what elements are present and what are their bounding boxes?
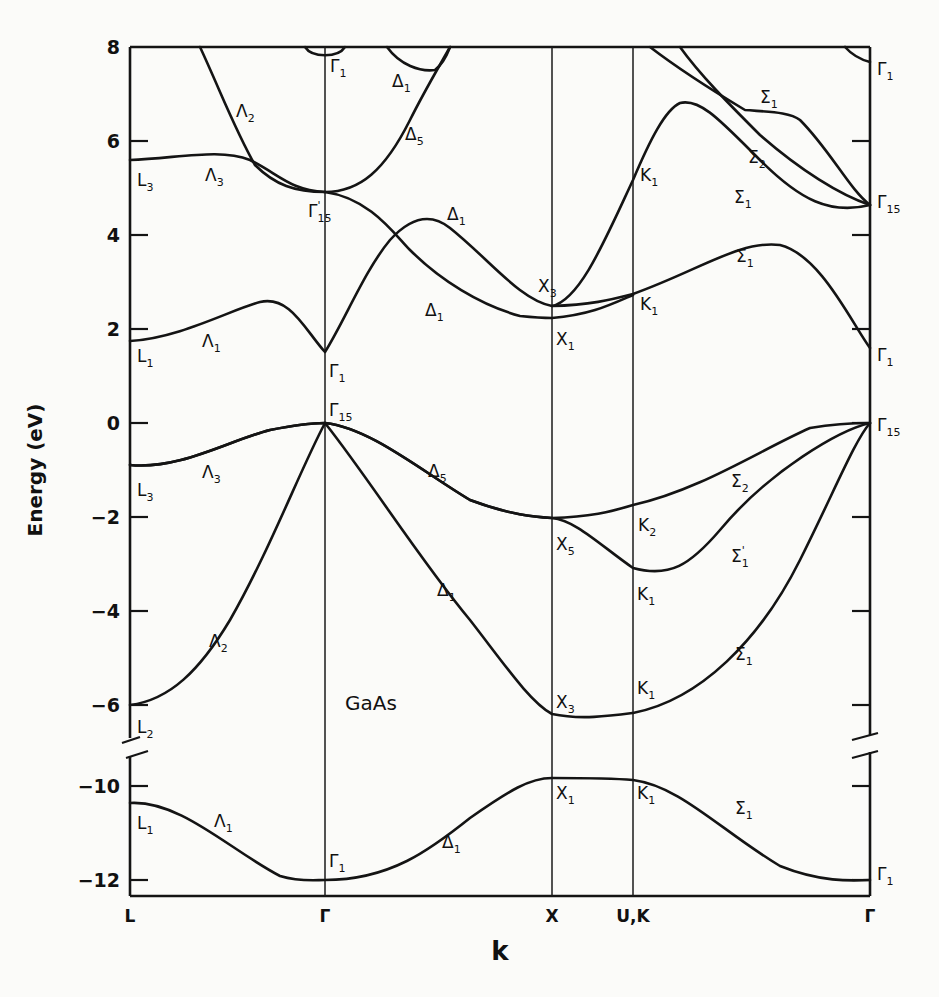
symmetry-point-label: Δ1 [425,300,444,324]
axis-break-mark-right-bottom [852,751,878,758]
symmetry-point-label: K2 [638,515,656,539]
y-tick-label: 0 [107,412,120,434]
symmetry-point-label: X3 [538,276,557,300]
symmetry-point-label: L3 [137,480,153,504]
symmetry-point-label: Σ1 [734,187,752,211]
symmetry-point-label: L1 [137,346,153,370]
x-tick-label: Γ [865,906,876,926]
y-tick-label: −2 [91,506,120,528]
band-curve [130,423,870,518]
symmetry-point-label: X3 [556,692,575,716]
y-axis-title: Energy (eV) [23,404,47,537]
symmetry-point-label: X1 [556,783,575,807]
symmetry-point-label: Γ'15 [308,199,332,225]
y-tick-label: 2 [107,318,120,340]
symmetry-point-label: Γ1 [329,361,345,385]
band-structure-figure: 86420−2−4−6−10−12 Γ1Δ1Λ2Δ5L3Λ3Γ'15Δ1X3Δ1… [0,0,939,997]
symmetry-point-label: Σ2 [748,147,766,171]
axis-break-mark-right-top [852,733,878,740]
symmetry-point-label: X1 [556,329,575,353]
symmetry-point-label: X5 [556,534,575,558]
symmetry-point-label: Γ1 [330,56,346,80]
band-structure-chart: 86420−2−4−6−10−12 Γ1Δ1Λ2Δ5L3Λ3Γ'15Δ1X3Δ1… [0,0,939,997]
band-curve [680,47,870,205]
symmetry-point-label: Λ3 [205,165,224,189]
band-curve [130,219,870,352]
symmetry-point-label: K1 [637,783,655,807]
symmetry-point-label: Σ1 [735,644,753,668]
symmetry-point-label: K1 [637,678,655,702]
symmetry-point-label: Γ1 [329,851,345,875]
symmetry-point-label: Δ5 [428,461,447,485]
symmetry-point-label: Δ1 [447,204,466,228]
symmetry-point-label: Γ15 [877,415,900,439]
symmetry-point-label: Λ2 [209,631,228,655]
y-tick-label: −4 [91,600,120,622]
band-curve [130,423,870,717]
symmetry-point-label: Γ1 [877,59,893,83]
x-tick-label: X [545,906,558,926]
symmetry-point-label: Δ5 [405,124,424,148]
y-tick-label: −10 [78,775,120,797]
y-tick-label: 8 [107,36,120,58]
x-tick-label: L [125,906,136,926]
symmetry-point-label: Σ1 [760,87,778,111]
y-tick-label: −6 [91,694,120,716]
symmetry-point-label: K1 [640,294,658,318]
x-tick-label: Γ [320,906,331,926]
symmetry-point-label: Λ1 [214,811,233,835]
symmetry-point-label: Γ1 [877,345,893,369]
plot-frame [122,47,878,896]
symmetry-point-label: Σ1 [735,798,753,822]
symmetry-point-label: Γ15 [329,400,352,424]
symmetry-point-label: K1 [637,584,655,608]
y-tick-label: 4 [107,224,120,246]
symmetry-point-label: Δ1 [392,71,411,95]
symmetry-point-label: Σ2 [731,471,749,495]
symmetry-point-label: L3 [137,170,153,194]
symmetry-point-label: L1 [137,813,153,837]
symmetry-point-label: Γ1 [877,864,893,888]
symmetry-point-label: Δ1 [437,580,456,604]
band-curve [650,47,870,205]
y-tick-label: 6 [107,130,120,152]
symmetry-point-label: Λ3 [202,462,221,486]
symmetry-point-label: Δ1 [442,832,461,856]
axis-break-mark-left-bottom [126,751,148,758]
band-curve [130,778,870,880]
symmetry-point-label: Γ15 [877,192,900,216]
symmetry-point-label: Λ1 [202,331,221,355]
symmetry-point-label: Σ'1 [731,544,749,570]
symmetry-labels: Γ1Δ1Λ2Δ5L3Λ3Γ'15Δ1X3Δ1K1K1X1Λ1L1Γ1Γ15Σ1Σ… [137,56,900,888]
band-curve [845,47,870,62]
symmetry-point-label: Λ2 [236,101,255,125]
material-label: GaAs [345,691,397,715]
x-axis-title: k [491,936,509,966]
y-tick-label: −12 [78,869,120,891]
energy-bands [130,47,870,880]
symmetry-point-label: K1 [640,165,658,189]
symmetry-point-label: Σ1 [736,246,754,270]
band-curve [130,423,870,571]
band-curve [130,154,325,192]
band-curve [387,47,450,70]
x-axis-labels: LΓXU,KΓ [125,906,876,926]
x-tick-label: U,K [616,906,650,926]
